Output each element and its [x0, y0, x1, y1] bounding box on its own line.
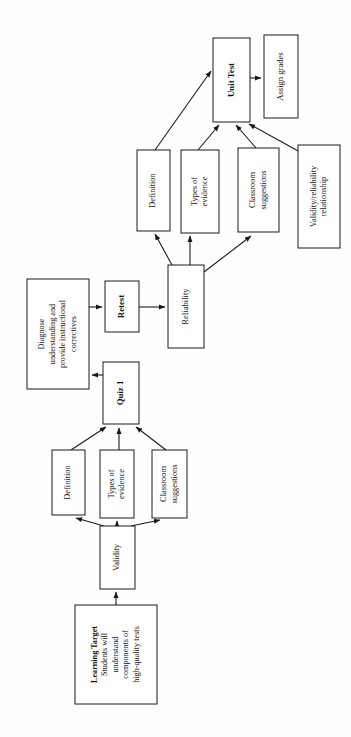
node-label-validity-reliability-relationship: Validity/reliability [309, 165, 318, 227]
node-definition-lower[interactable]: Definition [52, 450, 85, 515]
node-label-classroom-suggestions-lower: suggestions [170, 464, 179, 503]
node-label-classroom-suggestions-upper: suggestions [259, 170, 268, 209]
edge-reliability-to-classroom-suggestions-upper [204, 236, 251, 272]
node-label-validity: Validity [111, 543, 121, 571]
node-label-learning-target: high-quality tests [132, 626, 141, 683]
node-label-assign-grades: Assign grades [275, 52, 285, 101]
node-validity-reliability-relationship[interactable]: Validity/reliabilityrelationship [298, 145, 340, 248]
node-diagnose[interactable]: Diagnoseunderstanding andprovide instruc… [27, 279, 89, 389]
node-label-diagnose: understanding and [48, 304, 57, 364]
node-classroom-suggestions-upper[interactable]: Classroomsuggestions [238, 148, 279, 232]
edge-validity-to-classroom-suggestions-lower [131, 520, 160, 526]
node-validity[interactable]: Validity [100, 526, 135, 589]
node-quiz-1[interactable]: Quiz 1 [103, 362, 139, 424]
node-label-diagnose: correctives [69, 316, 78, 352]
node-label-diagnose: provide instructional [58, 299, 67, 368]
node-label-classroom-suggestions-lower: Classroom [159, 466, 168, 502]
node-label-types-of-evidence-lower: Types of [107, 469, 116, 498]
node-classroom-suggestions-lower[interactable]: Classroomsuggestions [152, 450, 187, 518]
node-label-reliability: Reliability [180, 288, 190, 325]
edge-classroom-suggestions-lower-to-quiz-1 [136, 427, 166, 450]
node-reliability[interactable]: Reliability [168, 265, 204, 348]
edge-reliability-to-definition-upper [155, 234, 172, 265]
node-label-validity-reliability-relationship: relationship [319, 177, 328, 217]
node-unit-test[interactable]: Unit Test [213, 38, 250, 122]
diagram-canvas: Learning TargetStudents willunderstandco… [0, 0, 351, 737]
node-label-retest: Retest [116, 295, 126, 319]
node-types-of-evidence-lower[interactable]: Types ofevidence [100, 450, 134, 518]
node-types-of-evidence-upper[interactable]: Types ofevidence [181, 150, 219, 233]
edge-types-of-evidence-upper-to-unit-test [198, 125, 219, 150]
node-label-types-of-evidence-upper: evidence [200, 176, 209, 206]
edge-definition-upper-to-unit-test [155, 71, 211, 150]
node-definition-upper[interactable]: Definition [137, 150, 170, 231]
node-label-learning-target: Students will [100, 632, 109, 676]
node-label-types-of-evidence-lower: evidence [117, 469, 126, 499]
nodes-layer: Learning TargetStudents willunderstandco… [27, 35, 340, 704]
node-label-definition-upper: Definition [148, 172, 157, 207]
node-retest[interactable]: Retest [105, 281, 139, 332]
node-label-quiz-1: Quiz 1 [115, 381, 125, 406]
edge-definition-lower-to-quiz-1 [71, 427, 106, 450]
node-label-learning-target: understand [111, 637, 120, 673]
node-label-types-of-evidence-upper: Types of [190, 177, 199, 206]
concept-map-diagram: Learning TargetStudents willunderstandco… [0, 0, 351, 737]
node-label-definition-lower: Definition [63, 464, 72, 499]
node-assign-grades[interactable]: Assign grades [264, 35, 298, 118]
edge-classroom-suggestions-upper-to-unit-test [236, 125, 256, 148]
node-learning-target[interactable]: Learning TargetStudents willunderstandco… [75, 605, 157, 704]
node-label-learning-target: Learning Target [90, 626, 99, 683]
node-label-classroom-suggestions-upper: Classroom [248, 172, 257, 208]
node-label-unit-test: Unit Test [226, 63, 236, 97]
edge-validity-to-definition-lower [76, 518, 104, 526]
node-label-diagnose: Diagnose [37, 318, 46, 349]
node-label-learning-target: components of [121, 630, 130, 679]
